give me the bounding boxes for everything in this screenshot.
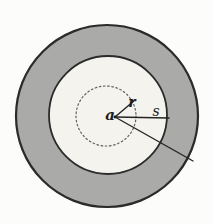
label-s: s [152,103,159,119]
figure-canvas: ars [0,0,213,224]
label-a: a [105,106,115,124]
radius-s-line [115,117,169,118]
annulus-figure: ars [0,0,213,224]
